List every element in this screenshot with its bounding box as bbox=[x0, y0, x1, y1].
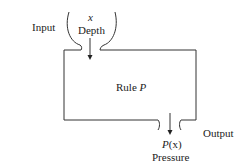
rule-title: Rule P bbox=[116, 81, 146, 93]
output-funnel-right bbox=[180, 120, 182, 130]
output-funnel-left bbox=[158, 120, 160, 130]
output-label: Output bbox=[203, 127, 234, 139]
input-name: Depth bbox=[78, 24, 105, 36]
input-variable: x bbox=[88, 11, 93, 23]
output-arrow-head-icon bbox=[168, 130, 173, 135]
rule-prefix: Rule bbox=[116, 81, 140, 93]
rule-name: P bbox=[140, 81, 147, 93]
output-arg: (x) bbox=[169, 138, 182, 150]
output-expression: P(x) bbox=[162, 138, 182, 150]
input-label: Input bbox=[32, 21, 55, 33]
output-name: Pressure bbox=[152, 151, 189, 163]
output-function: P bbox=[162, 138, 169, 150]
input-arrow-head-icon bbox=[88, 55, 93, 60]
